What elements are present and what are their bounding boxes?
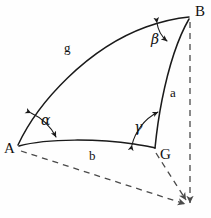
vertex-label-B: B — [195, 4, 205, 19]
spherical-triangle-figure: A B G g a b α β γ — [0, 0, 211, 218]
side-arc-b — [19, 140, 155, 148]
side-arc-a — [155, 19, 189, 148]
angle-label-gamma: γ — [134, 120, 142, 134]
angle-label-alpha: α — [41, 113, 50, 127]
angle-label-beta: β — [151, 32, 159, 46]
side-label-g: g — [64, 41, 71, 54]
vertex-label-G: G — [160, 147, 171, 162]
side-label-a: a — [170, 86, 176, 99]
vertex-label-A: A — [4, 141, 15, 156]
side-label-b: b — [89, 149, 96, 162]
diagram-canvas — [0, 0, 211, 218]
